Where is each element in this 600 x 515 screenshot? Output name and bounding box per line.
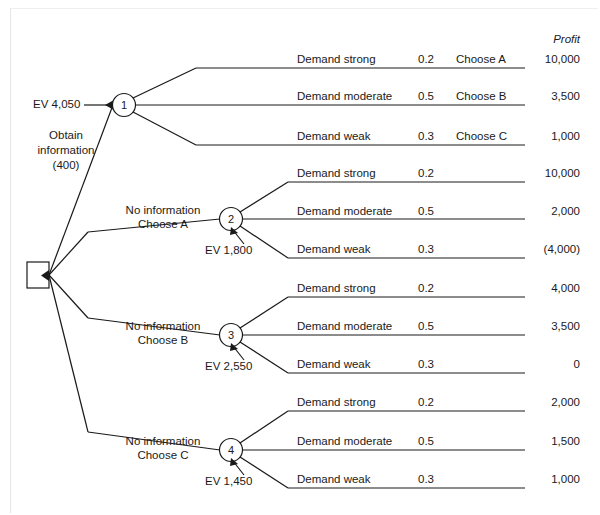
branch-label-no-info-b: No information Choose B — [108, 319, 218, 348]
branch-label-line-1: No information — [108, 203, 218, 217]
outcome-demand-label: Demand weak — [297, 130, 371, 143]
outcome-profit: 1,000 — [512, 130, 580, 143]
outcome-probability: 0.2 — [418, 282, 434, 295]
outcome-profit: 0 — [512, 358, 580, 371]
outcome-profit: 1,500 — [512, 435, 580, 448]
outcome-profit: 2,000 — [512, 396, 580, 409]
ev-label-node2: EV 1,800 — [205, 244, 252, 257]
obtain-line-3: (400) — [26, 158, 106, 173]
outcome-demand-label: Demand strong — [297, 167, 376, 180]
outcome-probability: 0.3 — [418, 130, 434, 143]
outcome-demand-label: Demand moderate — [297, 435, 392, 448]
node-id-2: 2 — [220, 213, 242, 226]
obtain-line-1: Obtain — [26, 128, 106, 143]
outcome-profit: 10,000 — [512, 53, 580, 66]
outcome-demand-label: Demand strong — [297, 282, 376, 295]
root-branch-no-info-a — [49, 232, 88, 275]
outcome-probability: 0.2 — [418, 53, 434, 66]
outcome-profit: 1,000 — [512, 473, 580, 486]
ev-label-node1: EV 4,050 — [33, 98, 80, 111]
outcome-demand-label: Demand weak — [297, 358, 371, 371]
branch-label-line-1: No information — [108, 434, 218, 448]
outcome-demand-label: Demand strong — [297, 396, 376, 409]
outcome-probability: 0.3 — [418, 358, 434, 371]
profit-column-header: Profit — [512, 33, 580, 46]
outcome-probability: 0.3 — [418, 473, 434, 486]
outcome-choice: Choose B — [456, 90, 507, 103]
node-id-1: 1 — [113, 99, 135, 112]
outcome-probability: 0.5 — [418, 320, 434, 333]
root-branch-no-info-c — [49, 275, 88, 432]
outcome-demand-label: Demand weak — [297, 243, 371, 256]
obtain-line-2: information — [26, 143, 106, 158]
outcome-demand-label: Demand moderate — [297, 205, 392, 218]
branch-label-line-2: Choose A — [108, 217, 218, 231]
outcome-demand-label: Demand strong — [297, 53, 376, 66]
node-id-4: 4 — [220, 444, 242, 457]
outcome-demand-label: Demand weak — [297, 473, 371, 486]
outcome-probability: 0.3 — [418, 243, 434, 256]
ev-label-node4: EV 1,450 — [205, 475, 252, 488]
outcome-probability: 0.5 — [418, 90, 434, 103]
outcome-profit: 2,000 — [512, 205, 580, 218]
branch-label-line-2: Choose C — [108, 448, 218, 462]
decision-tree-canvas: Profit EV 4,050 Obtain information (400)… — [0, 0, 600, 515]
node-id-3: 3 — [220, 329, 242, 342]
outcome-profit: (4,000) — [512, 243, 580, 256]
branch-label-no-info-c: No information Choose C — [108, 434, 218, 463]
branch-label-line-2: Choose B — [108, 333, 218, 347]
outcome-probability: 0.5 — [418, 435, 434, 448]
outcome-profit: 3,500 — [512, 320, 580, 333]
outcome-demand-label: Demand moderate — [297, 320, 392, 333]
root-branch-label-obtain-information: Obtain information (400) — [26, 128, 106, 173]
outcome-profit: 10,000 — [512, 167, 580, 180]
branch-label-line-1: No information — [108, 319, 218, 333]
outcome-choice: Choose C — [456, 130, 507, 143]
outcome-profit: 3,500 — [512, 90, 580, 103]
ev-label-node3: EV 2,550 — [205, 360, 252, 373]
outcome-probability: 0.5 — [418, 205, 434, 218]
ev-arrowhead-node1 — [105, 101, 113, 110]
outcome-demand-label: Demand moderate — [297, 90, 392, 103]
outcome-probability: 0.2 — [418, 167, 434, 180]
outcome-probability: 0.2 — [418, 396, 434, 409]
outcome-choice: Choose A — [456, 53, 506, 66]
branch-label-no-info-a: No information Choose A — [108, 203, 218, 232]
outcome-profit: 4,000 — [512, 282, 580, 295]
